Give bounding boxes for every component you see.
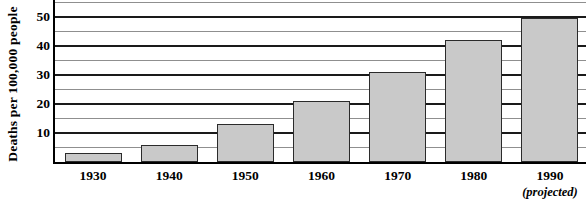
x-axis-tick-labels: 1930194019501960197019801990(projected): [53, 164, 586, 204]
x-tick-label-year: 1970: [384, 168, 411, 183]
x-tick-label-year: 1980: [460, 168, 487, 183]
x-tick-label-year: 1930: [80, 168, 107, 183]
y-tick-label-50: 50: [37, 9, 51, 25]
bar-chart: Deaths per 100,000 people 1020304050 193…: [0, 0, 586, 204]
y-axis-tick-labels: 1020304050: [26, 0, 52, 168]
x-tick-label-1990: 1990(projected): [504, 167, 586, 200]
plot-area: [53, 0, 586, 164]
y-tick-label-20: 20: [37, 96, 51, 112]
bar-1980: [445, 40, 502, 162]
bar-1990: [521, 18, 578, 162]
y-axis-title: Deaths per 100,000 people: [0, 0, 26, 168]
y-tick-label-10: 10: [37, 125, 51, 141]
bars-layer: [53, 0, 586, 164]
y-tick-label-40: 40: [37, 38, 51, 54]
x-tick-label-year: 1950: [232, 168, 259, 183]
x-tick-label-year: 1940: [156, 168, 183, 183]
bar-1930: [65, 153, 122, 162]
bar-1940: [141, 145, 198, 162]
bar-1970: [369, 72, 426, 162]
y-tick-label-30: 30: [37, 67, 51, 83]
x-tick-label-year: 1960: [308, 168, 335, 183]
y-axis-title-label: Deaths per 100,000 people: [5, 6, 21, 162]
x-tick-sublabel-projected: (projected): [504, 184, 586, 200]
bar-1960: [293, 101, 350, 162]
bar-1950: [217, 124, 274, 162]
x-tick-label-year: 1990: [536, 168, 563, 183]
